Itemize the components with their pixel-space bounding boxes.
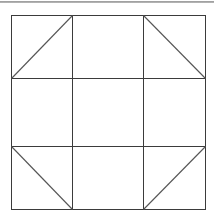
figure-container [0, 0, 214, 220]
diagonal-top-left [12, 16, 73, 79]
diagonal-bottom-left [12, 147, 73, 210]
diagonal-bottom-right [144, 147, 206, 210]
grid-square-diagram [0, 0, 214, 220]
outer-square [12, 16, 206, 210]
diagonal-top-right [144, 16, 206, 79]
